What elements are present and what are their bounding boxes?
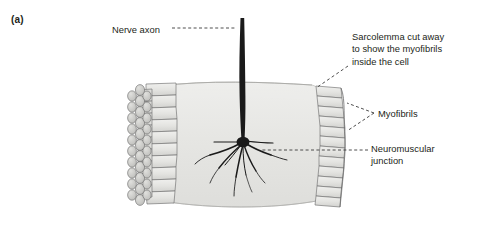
leader-sarcolemma xyxy=(316,66,348,88)
label-sarcolemma: Sarcolemma cut away to show the myofibri… xyxy=(352,31,472,68)
label-nerve-axon: Nerve axon xyxy=(112,24,160,36)
label-neuromuscular-junction: Neuromuscular junction xyxy=(371,143,471,168)
leader-myofibrils-lower xyxy=(347,113,374,131)
panel-letter: (a) xyxy=(11,14,24,25)
myofibril-bundle-left xyxy=(128,83,177,205)
leader-myofibrils-upper xyxy=(347,103,374,113)
figure-neuromuscular-junction: (a) Nerve axon Sarcolemma cut away to sh… xyxy=(0,0,477,245)
label-myofibrils: Myofibrils xyxy=(378,108,418,120)
